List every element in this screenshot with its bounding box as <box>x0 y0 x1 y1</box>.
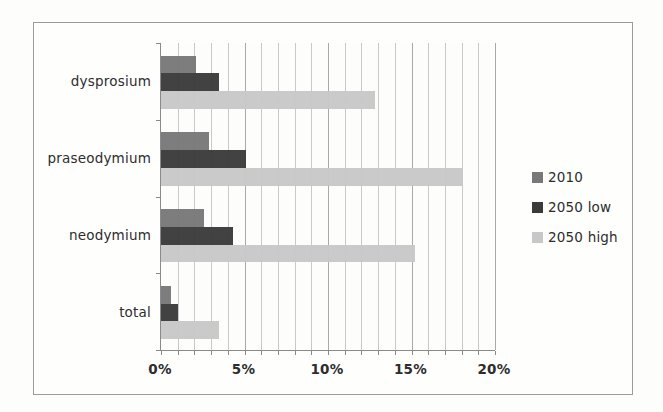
legend-swatch-icon <box>532 172 543 183</box>
x-axis-tick <box>261 351 262 355</box>
minor-grid-line <box>361 43 362 350</box>
y-axis-tick <box>156 197 160 198</box>
bar-2050-high-total <box>161 321 219 339</box>
minor-grid-line <box>462 43 463 350</box>
legend-label: 2010 <box>548 169 583 185</box>
x-axis-tick <box>245 351 246 355</box>
y-axis-tick <box>156 273 160 274</box>
x-axis-tick <box>428 351 429 355</box>
x-axis-tick <box>178 351 179 355</box>
legend-item-2050-low: 2050 low <box>532 198 618 216</box>
minor-grid-line <box>428 43 429 350</box>
category-label-total: total <box>34 273 151 350</box>
bar-2050-low-dysprosium <box>161 73 219 91</box>
legend-item-2050-high: 2050 high <box>532 228 618 246</box>
legend-label: 2050 low <box>548 199 611 215</box>
x-tick-label-0: 0% <box>148 361 172 377</box>
x-axis-tick <box>161 351 162 355</box>
bar-2050-low-praseodymium <box>161 150 246 168</box>
minor-grid-line <box>478 43 479 350</box>
minor-grid-line <box>295 43 296 350</box>
category-label-neodymium: neodymium <box>34 197 151 274</box>
bar-2010-total <box>161 286 171 304</box>
x-axis-tick <box>328 351 329 355</box>
x-axis-tick <box>478 351 479 355</box>
x-axis-tick <box>228 351 229 355</box>
y-axis-tick <box>156 350 160 351</box>
bar-2010-neodymium <box>161 209 204 227</box>
major-grid-line <box>495 43 496 350</box>
bar-2050-high-praseodymium <box>161 168 463 186</box>
chart-figure: dysprosiumpraseodymiumneodymiumtotal 0%5… <box>33 22 633 395</box>
x-axis-tick <box>194 351 195 355</box>
x-axis-tick <box>495 351 496 355</box>
x-axis-tick <box>361 351 362 355</box>
minor-grid-line <box>395 43 396 350</box>
y-axis-tick <box>156 120 160 121</box>
x-axis-tick <box>412 351 413 355</box>
legend-label: 2050 high <box>548 229 618 245</box>
minor-grid-line <box>261 43 262 350</box>
bar-2050-high-dysprosium <box>161 91 375 109</box>
minor-grid-line <box>311 43 312 350</box>
x-axis-tick <box>311 351 312 355</box>
category-label-dysprosium: dysprosium <box>34 43 151 120</box>
x-tick-label-15: 15% <box>394 361 427 377</box>
legend-swatch-icon <box>532 202 543 213</box>
x-axis-tick <box>445 351 446 355</box>
x-axis-tick <box>378 351 379 355</box>
bar-2010-praseodymium <box>161 132 209 150</box>
category-label-praseodymium: praseodymium <box>34 120 151 197</box>
bar-2050-low-total <box>161 304 178 322</box>
x-axis-tick <box>278 351 279 355</box>
x-axis-tick <box>211 351 212 355</box>
legend-item-2010: 2010 <box>532 168 618 186</box>
minor-grid-line <box>228 43 229 350</box>
legend-swatch-icon <box>532 232 543 243</box>
minor-grid-line <box>378 43 379 350</box>
y-axis-tick <box>156 43 160 44</box>
x-axis-tick <box>345 351 346 355</box>
x-axis-tick <box>295 351 296 355</box>
major-grid-line <box>412 43 413 350</box>
legend: 20102050 low2050 high <box>532 168 618 258</box>
bar-2010-dysprosium <box>161 56 196 74</box>
minor-grid-line <box>345 43 346 350</box>
bar-2050-high-neodymium <box>161 245 415 263</box>
plot-area <box>160 43 495 351</box>
x-axis-tick <box>462 351 463 355</box>
major-grid-line <box>328 43 329 350</box>
minor-grid-line <box>278 43 279 350</box>
minor-grid-line <box>445 43 446 350</box>
screenshot-root: dysprosiumpraseodymiumneodymiumtotal 0%5… <box>0 0 663 412</box>
major-grid-line <box>245 43 246 350</box>
x-tick-label-5: 5% <box>232 361 256 377</box>
x-tick-label-10: 10% <box>310 361 343 377</box>
x-tick-label-20: 20% <box>477 361 510 377</box>
x-axis-tick <box>395 351 396 355</box>
bar-2050-low-neodymium <box>161 227 233 245</box>
